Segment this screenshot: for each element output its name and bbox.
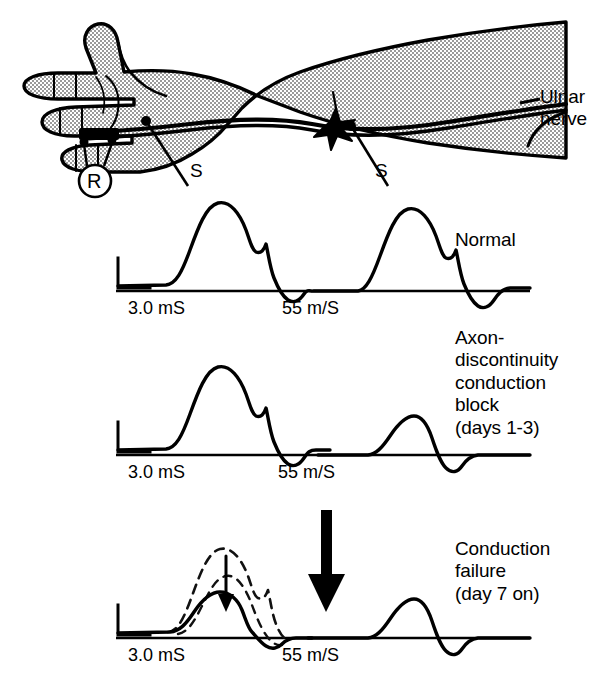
arm-illustration xyxy=(24,22,566,197)
nerve-conduction-figure: Ulnar nerve S S R Normal Axon- discontin… xyxy=(0,0,614,696)
conduction-velocity-label-block: 55 m/S xyxy=(278,462,335,483)
arm-silhouette xyxy=(24,22,566,172)
stimulus-label-distal: S xyxy=(190,160,203,182)
conduction-velocity-label-normal: 55 m/S xyxy=(282,298,339,319)
amplitude-decrement-arrow-icon xyxy=(218,556,234,612)
distal-latency-label-failure: 3.0 mS xyxy=(128,645,185,666)
trace-label-axon-discontinuity-block: Axon- discontinuity conduction block (da… xyxy=(455,327,558,439)
trace-label-normal: Normal xyxy=(455,229,516,251)
waveform-block xyxy=(118,367,330,466)
calibration-marker-3 xyxy=(118,605,150,635)
trace-label-conduction-failure: Conduction failure (day 7 on) xyxy=(455,538,550,605)
calibration-marker-1 xyxy=(118,258,150,288)
distal-latency-label-normal: 3.0 mS xyxy=(128,298,185,319)
ulnar-nerve-label: Ulnar nerve xyxy=(540,86,587,131)
distal-latency-label-block: 3.0 mS xyxy=(128,462,185,483)
waveform-failure-distal xyxy=(118,592,312,648)
conduction-velocity-label-failure: 55 m/S xyxy=(282,645,339,666)
waveform-failure-proximal xyxy=(308,599,530,655)
recording-electrode-label: R xyxy=(87,170,101,194)
trace-normal xyxy=(116,203,530,308)
calibration-marker-2 xyxy=(118,422,150,452)
progression-arrow-icon xyxy=(308,510,345,612)
stimulus-label-proximal: S xyxy=(375,160,388,182)
